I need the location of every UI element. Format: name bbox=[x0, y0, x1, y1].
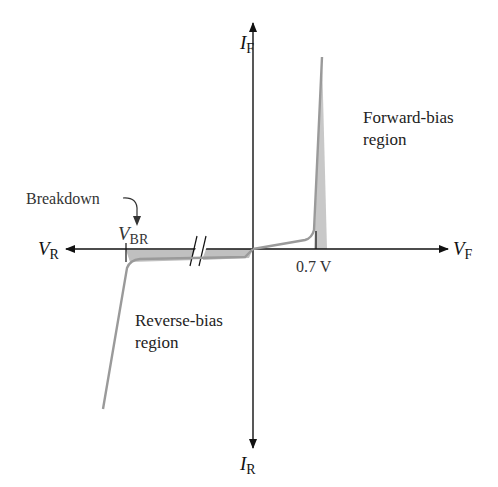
vbr-label: VBR bbox=[118, 225, 148, 249]
axis-label-vr: VR bbox=[38, 240, 59, 264]
axis-label-vf: VF bbox=[453, 240, 472, 264]
forward-bias-region-label: Forward-bias region bbox=[363, 107, 454, 151]
axis-label-if: IF bbox=[240, 34, 254, 58]
forward-region-line-1: Forward-bias bbox=[363, 107, 454, 129]
forward-curve bbox=[253, 57, 322, 249]
forward-region-line-2: region bbox=[363, 129, 454, 151]
reverse-region-line-2: region bbox=[135, 332, 223, 354]
breakdown-label: Breakdown bbox=[26, 190, 100, 208]
reverse-region-line-1: Reverse-bias bbox=[135, 310, 223, 332]
breakdown-pointer-icon bbox=[123, 198, 137, 218]
diagram-graphics bbox=[0, 0, 498, 487]
knee-voltage-label: 0.7 V bbox=[296, 258, 331, 276]
reverse-bias-region-label: Reverse-bias region bbox=[135, 310, 223, 354]
axis-label-ir: IR bbox=[240, 455, 256, 479]
diode-iv-diagram: IF IR VF VR VBR Breakdown 0.7 V Forward-… bbox=[0, 0, 498, 487]
